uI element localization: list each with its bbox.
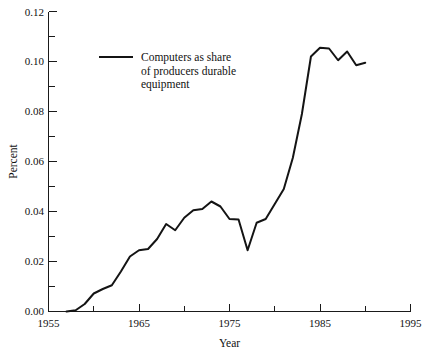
- y-tick-label: 0.02: [25, 255, 44, 267]
- line-chart: 0.00 0.02 0.04 0.06 0.08 0.10 0.12 1955 …: [0, 0, 435, 353]
- x-tick-label: 1995: [400, 317, 423, 329]
- y-tick-label: 0.10: [25, 55, 45, 67]
- x-tick-label: 1955: [38, 317, 61, 329]
- legend-label-line3: equipment: [141, 78, 190, 91]
- chart-legend: Computers as share of producers durable …: [99, 51, 236, 91]
- x-major-ticks: [49, 304, 411, 312]
- y-axis-title: Percent: [7, 143, 19, 178]
- x-tick-label: 1965: [128, 317, 151, 329]
- chart-figure: 0.00 0.02 0.04 0.06 0.08 0.10 0.12 1955 …: [0, 0, 435, 353]
- y-major-ticks: [49, 12, 57, 312]
- legend-label-line1: Computers as share: [141, 51, 231, 64]
- series-line-computers-share: [67, 48, 366, 312]
- y-tick-labels: 0.00 0.02 0.04 0.06 0.08 0.10 0.12: [25, 6, 45, 318]
- x-tick-labels: 1955 1965 1975 1985 1995: [38, 317, 423, 329]
- x-axis-title: Year: [219, 337, 240, 349]
- x-tick-label: 1985: [309, 317, 332, 329]
- y-tick-label: 0.06: [25, 155, 45, 167]
- y-tick-label: 0.00: [25, 305, 45, 317]
- y-tick-label: 0.12: [25, 6, 44, 18]
- legend-label-line2: of producers durable: [141, 65, 236, 78]
- y-tick-label: 0.08: [25, 105, 45, 117]
- x-tick-label: 1975: [219, 317, 242, 329]
- y-tick-label: 0.04: [25, 205, 45, 217]
